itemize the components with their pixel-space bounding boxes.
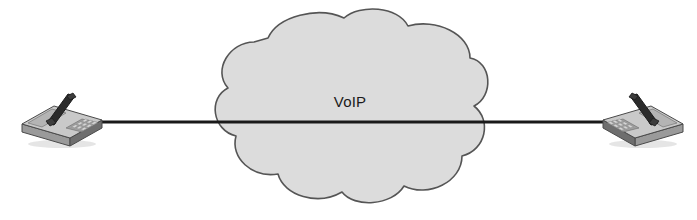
cloud-label-voip: VoIP <box>334 93 367 110</box>
ip-phone-right <box>603 93 683 148</box>
ip-phone-left <box>22 93 102 148</box>
voip-network-diagram: VoIP <box>0 0 697 220</box>
diagram-svg-canvas: VoIP <box>0 0 697 220</box>
